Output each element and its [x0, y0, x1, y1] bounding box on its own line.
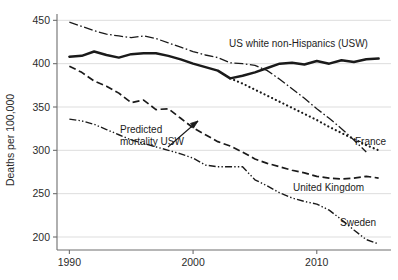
y-tick-label-350: 350 — [32, 101, 50, 113]
x-axis-ticks: 199020002010 — [58, 250, 329, 268]
series-lines — [69, 22, 378, 244]
chart-canvas: 200250300350400450 199020002010 US white… — [0, 0, 398, 280]
y-axis-title: Deaths per 100,000 — [4, 94, 16, 186]
y-tick-label-450: 450 — [32, 14, 50, 26]
series-label-france: France — [355, 136, 387, 147]
series-label-sweden: Sweden — [340, 217, 376, 228]
y-tick-label-300: 300 — [32, 144, 50, 156]
y-axis-ticks: 200250300350400450 — [32, 14, 57, 243]
axes — [57, 14, 391, 250]
series-line-united-kingdom — [69, 66, 378, 179]
series-line-us-white-non-hispanics-usw — [69, 52, 378, 79]
annotations-layer: US white non-Hispanics (USW)FranceUnited… — [120, 38, 387, 228]
mortality-line-chart: 200250300350400450 199020002010 US white… — [0, 0, 398, 280]
y-tick-label-200: 200 — [32, 231, 50, 243]
x-tick-label-2010: 2010 — [305, 256, 329, 268]
annotation-predicted-mortality-line1: Predicted — [120, 124, 162, 135]
y-tick-label-400: 400 — [32, 57, 50, 69]
series-label-usw: US white non-Hispanics (USW) — [229, 38, 368, 49]
series-label-united-kingdom: United Kingdom — [293, 182, 364, 193]
x-tick-label-2000: 2000 — [181, 256, 205, 268]
x-tick-label-1990: 1990 — [58, 256, 82, 268]
y-tick-label-250: 250 — [32, 187, 50, 199]
